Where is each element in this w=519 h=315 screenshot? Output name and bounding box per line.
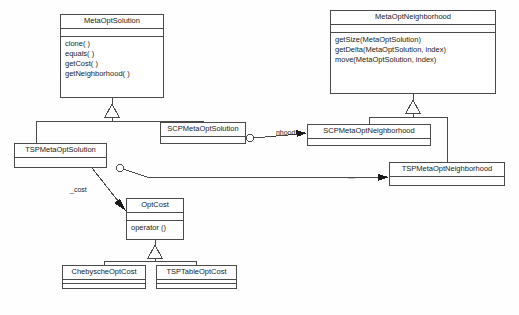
class-operations-compartment [157,284,236,288]
class-name: TSPTableOptCost [157,266,236,280]
class-box-tsp-meta-opt-neighborhood[interactable]: TSPMetaOptNeighborhood [389,162,505,186]
class-body-compartment [15,158,106,167]
association-label-cost: _cost [70,186,87,193]
class-box-opt-cost[interactable]: OptCost operator () [126,198,184,240]
assoc-arrowhead-tsp-nhood [378,174,389,181]
class-box-tsp-meta-opt-solution[interactable]: TSPMetaOptSolution [14,143,107,168]
class-name: ChebyscheOptCost [63,266,145,280]
operation-item: equals( ) [65,49,159,59]
class-name: SCPMetaOptSolution [161,123,245,137]
class-name: TSPMetaOptSolution [15,144,106,158]
class-name: MetaOptSolution [61,15,163,29]
class-name: SCPMetaOptNeighborhood [308,125,430,139]
class-box-meta-opt-neighborhood[interactable]: MetaOptNeighborhood getSize(MetaOptSolut… [330,10,496,94]
class-name: MetaOptNeighborhood [331,11,495,25]
operation-item: move(MetaOptSolution, index) [335,55,491,65]
uml-diagram-canvas: MetaOptSolution clone( ) equals( ) getCo… [0,0,519,315]
assoc-arrowhead-cost [114,199,126,211]
class-attributes-compartment [61,29,163,37]
assoc-endpoint-circle-scp [247,135,254,142]
operation-item: getDelta(MetaOptSolution, index) [335,45,491,55]
operation-item: getCost( ) [65,59,159,69]
class-box-scp-meta-opt-solution[interactable]: SCPMetaOptSolution [160,122,246,144]
class-box-meta-opt-solution[interactable]: MetaOptSolution clone( ) equals( ) getCo… [60,14,164,98]
class-operations-compartment: getSize(MetaOptSolution) getDelta(MetaOp… [331,33,495,93]
assoc-line-tsp-nhood [123,169,382,178]
class-box-tsp-table-opt-cost[interactable]: TSPTableOptCost [156,265,237,289]
class-name: TSPMetaOptNeighborhood [390,163,504,177]
gen-triangle-neighborhood [406,100,420,113]
class-operations-compartment [63,284,145,288]
operation-item: getSize(MetaOptSolution) [335,35,491,45]
operation-item: clone( ) [65,39,159,49]
association-label-unnamed: — [348,174,355,181]
operation-item: getNeighborhood( ) [65,69,159,79]
class-operations-compartment: operator () [127,221,183,239]
class-attributes-compartment [127,213,183,221]
class-attributes-compartment [331,25,495,33]
gen-triangle-optcost [148,245,162,258]
assoc-arrowhead-nhood [296,130,307,137]
class-body-compartment [161,137,245,143]
class-body-compartment [308,139,430,145]
association-label-nhood: _nhood [272,129,295,136]
class-box-chebysche-opt-cost[interactable]: ChebyscheOptCost [62,265,146,289]
operation-item: operator () [131,223,179,233]
class-name: OptCost [127,199,183,213]
gen-triangle-solution [105,104,119,117]
class-box-scp-meta-opt-neighborhood[interactable]: SCPMetaOptNeighborhood [307,124,431,146]
class-body-compartment [390,177,504,185]
assoc-endpoint-circle-tsp [117,165,124,172]
assoc-line-cost [92,168,122,206]
class-operations-compartment: clone( ) equals( ) getCost( ) getNeighbo… [61,37,163,97]
